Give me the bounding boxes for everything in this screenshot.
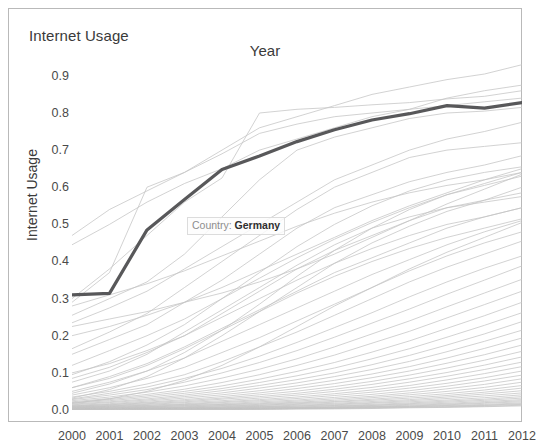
country-tooltip: Country: Germany [187,217,285,235]
x-tick-label: 2011 [471,429,498,443]
tooltip-prefix: Country: [192,219,232,231]
x-tick-label: 2000 [58,429,86,443]
x-tick-label: 2001 [96,429,124,443]
y-tick-label: 0.8 [29,106,69,120]
x-tick-label: 2007 [321,429,349,443]
x-tick-label: 2006 [283,429,311,443]
tooltip-value: Germany [235,219,281,231]
country-line[interactable] [72,98,522,302]
x-tick-label: 2002 [133,429,161,443]
x-axis-ticks: 2000200120022003200420052006200720082009… [9,429,539,447]
country-line[interactable] [72,197,522,383]
country-line[interactable] [72,208,522,388]
y-tick-label: 0.6 [29,180,69,194]
x-tick-label: 2008 [358,429,386,443]
spaghetti-lines [72,61,522,410]
x-tick-label: 2010 [433,429,461,443]
y-axis-ticks: 0.00.10.20.30.40.50.60.70.80.9 [27,9,69,447]
highlighted-country-line[interactable] [72,103,522,295]
plot-area [72,61,522,410]
y-tick-label: 0.2 [29,329,69,343]
x-tick-label: 2012 [508,429,536,443]
y-tick-label: 0.0 [29,403,69,417]
x-tick-label: 2005 [246,429,274,443]
x-tick-label: 2003 [171,429,199,443]
country-line[interactable] [72,322,522,405]
y-tick-label: 0.1 [29,366,69,380]
country-line[interactable] [72,167,522,375]
x-tick-label: 2004 [208,429,236,443]
y-tick-label: 0.5 [29,217,69,231]
country-line[interactable] [72,172,522,393]
y-tick-label: 0.9 [29,69,69,83]
x-tick-label: 2009 [396,429,424,443]
y-tick-label: 0.3 [29,292,69,306]
chart-title: Year [9,42,521,59]
y-tick-label: 0.4 [29,254,69,268]
chart-frame: Internet Usage Year Internet Usage 0.00.… [8,8,522,422]
country-line[interactable] [72,169,522,336]
country-line[interactable] [72,156,522,355]
y-tick-label: 0.7 [29,143,69,157]
